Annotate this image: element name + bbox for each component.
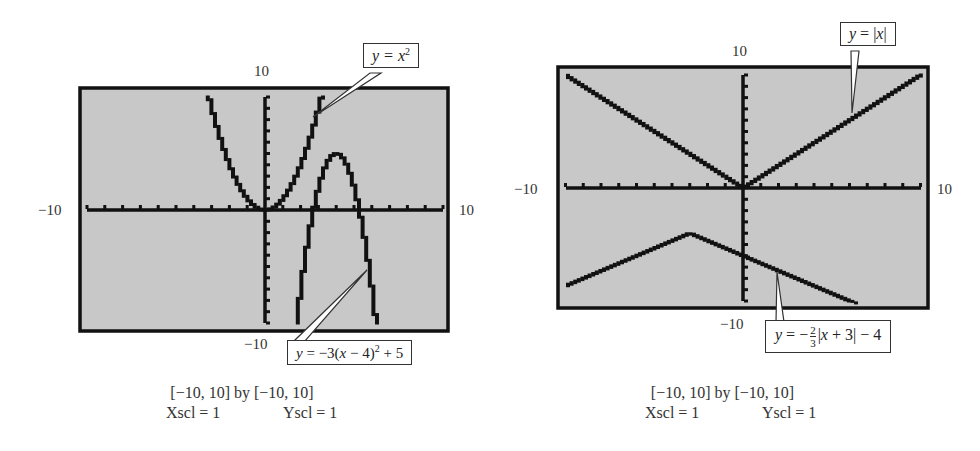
callout-text: y = −23|x + 3| − 4 — [775, 326, 881, 343]
callout-y-eq-abs-x: y = |x| — [840, 22, 896, 46]
graph-right-svg — [0, 0, 980, 451]
right-window-caption: [−10, 10] by [−10, 10] — [620, 384, 825, 402]
callout-y-eq-neg-two-thirds-abs: y = −23|x + 3| − 4 — [765, 320, 891, 353]
right-xscl: Xscl = 1 — [645, 404, 699, 422]
right-ymax-label: 10 — [732, 43, 747, 60]
right-xmax-label: 10 — [937, 181, 952, 198]
right-yscl: Yscl = 1 — [762, 404, 816, 422]
right-xmin-label: −10 — [514, 181, 537, 198]
callout-text: y = |x| — [849, 25, 887, 42]
right-ymin-label: −10 — [720, 316, 743, 333]
